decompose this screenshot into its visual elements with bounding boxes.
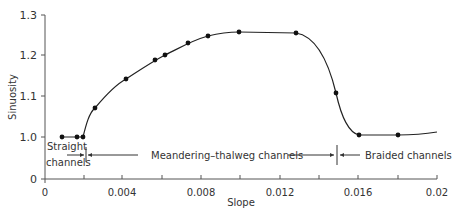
data-point	[153, 58, 158, 63]
data-series	[60, 30, 437, 140]
data-point	[357, 133, 362, 138]
data-point	[396, 133, 401, 138]
annotation-meandering: Meandering–thalweg channels	[151, 150, 303, 161]
data-point	[75, 135, 80, 140]
trend-curve	[62, 32, 437, 137]
data-point	[294, 31, 299, 36]
annotation-straight: Straight	[47, 141, 87, 152]
y-tick-label: 1.0	[20, 131, 38, 144]
data-point	[334, 91, 339, 96]
x-tick-label: 0.016	[344, 187, 373, 198]
annotation-braided: Braided channels	[365, 150, 452, 161]
data-point	[163, 53, 168, 58]
x-tick-label: 0.008	[187, 187, 216, 198]
annotation-channels: channels	[46, 157, 91, 168]
x-axis-label: Slope	[227, 197, 255, 208]
x-axis: 0 0.004 0.008 0.012 0.016 0.02 Slope	[42, 175, 448, 208]
y-tick-label: 1.2	[20, 49, 38, 62]
data-point	[124, 77, 129, 82]
sinuosity-slope-chart: 1.3 1.2 1.1 1.0 0 Sinuosity 0 0.004 0.00…	[0, 0, 455, 216]
x-tick-label: 0.004	[108, 187, 137, 198]
data-point	[186, 41, 191, 46]
x-tick-label: 0.02	[426, 187, 448, 198]
data-point	[93, 106, 98, 111]
y-tick-label: 1.3	[20, 9, 38, 22]
y-axis-label: Sinuosity	[7, 74, 18, 120]
y-tick-label: 0	[30, 173, 37, 186]
arrow-icon	[340, 153, 344, 157]
y-axis: 1.3 1.2 1.1 1.0 0 Sinuosity	[7, 9, 45, 186]
x-tick-label: 0	[42, 187, 48, 198]
channel-annotations: Straight channels Meandering–thalweg cha…	[46, 141, 452, 168]
arrow-icon	[330, 153, 334, 157]
data-point	[60, 135, 65, 140]
data-point	[206, 34, 211, 39]
y-tick-label: 1.1	[20, 90, 38, 103]
data-point	[81, 135, 86, 140]
x-tick-label: 0.012	[266, 187, 295, 198]
data-point	[237, 30, 242, 35]
